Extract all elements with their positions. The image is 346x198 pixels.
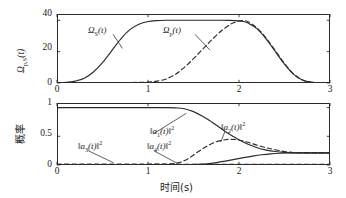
top-xtick-1: 1 (139, 85, 157, 95)
bottom-yaxis-label: 概率 (12, 124, 27, 144)
top-yaxis-label: Ωp,S(t) (16, 49, 28, 73)
bottom-xaxis-label: 时间(s) (160, 179, 193, 194)
top-yaxis-omega: Ω (16, 66, 26, 73)
annotation-omega-s: ΩS(t) (88, 25, 106, 37)
bottom-panel: 1 0.5 0 0 1 2 3 概率 时间(s) ‖a1(t)‖2 ‖a2(t)… (0, 98, 346, 198)
annotation-leader-2 (195, 34, 210, 50)
top-xtick-2: 2 (230, 85, 248, 95)
top-yaxis-subscript: p,S (21, 58, 28, 66)
top-panel: 40 20 0 0 1 2 3 Ωp,S(t) ΩS(t) Ωp(t) (0, 0, 346, 100)
top-ytick-20: 20 (26, 43, 52, 53)
annotation-a3: ‖a3(t)‖2 (78, 140, 102, 153)
bottom-xtick-2: 2 (230, 167, 248, 177)
top-ytick-40: 40 (26, 9, 52, 19)
figure-root: 40 20 0 0 1 2 3 Ωp,S(t) ΩS(t) Ωp(t) 1 0.… (0, 0, 346, 198)
top-yaxis-arg: (t) (16, 49, 26, 58)
bottom-xtick-1: 1 (139, 167, 157, 177)
annotation-omega-p: Ωp(t) (163, 25, 181, 37)
annotation-a2: ‖a2(t)‖2 (221, 121, 245, 134)
bottom-xtick-3: 3 (321, 167, 339, 177)
top-xtick-3: 3 (321, 85, 339, 95)
top-xtick-0: 0 (48, 85, 66, 95)
bottom-ytick-0p5: 0.5 (24, 129, 52, 139)
bottom-ytick-1: 1 (24, 98, 52, 108)
annotation-a1: ‖a1(t)‖2 (150, 125, 174, 138)
annotation-a4: ‖a4(t)‖2 (147, 140, 171, 153)
bottom-xtick-0: 0 (48, 167, 66, 177)
